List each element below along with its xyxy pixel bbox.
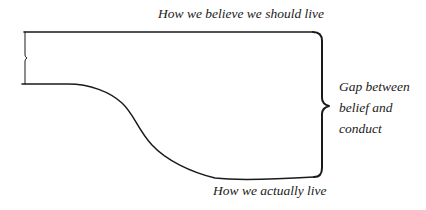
actual-label: How we actually live (213, 184, 327, 198)
left-bracket (25, 32, 27, 84)
right-brace (313, 32, 329, 177)
belief-conduct-gap-diagram: How we believe we should live Gap betwee… (0, 0, 426, 210)
gap-label: Gap between belief and conduct (339, 76, 410, 139)
gap-label-line-3: conduct (339, 118, 410, 139)
gap-label-line-2: belief and (339, 97, 410, 118)
gap-label-line-1: Gap between (339, 76, 410, 97)
ideal-label: How we believe we should live (158, 7, 324, 21)
actual-curve (22, 84, 314, 180)
